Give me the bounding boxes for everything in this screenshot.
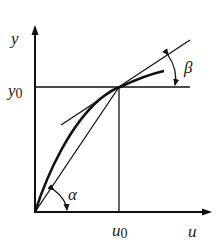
y-axis-label: y (9, 29, 19, 48)
chord-line (35, 87, 119, 212)
nonlinear-characteristic-diagram: y u y0 u0 α β (0, 0, 222, 245)
y0-label-sub: 0 (16, 86, 23, 101)
u0-label-base: u (112, 221, 121, 240)
alpha-label: α (68, 185, 78, 204)
beta-angle-arc (168, 55, 176, 85)
beta-label: β (183, 58, 193, 77)
u0-label-sub: 0 (121, 226, 128, 241)
u0-label: u0 (112, 221, 128, 241)
alpha-angle-arc (54, 190, 67, 210)
y0-label: y0 (6, 81, 23, 101)
y0-label-base: y (6, 81, 16, 100)
u-axis-label: u (188, 222, 197, 241)
tangent-line (61, 40, 190, 125)
